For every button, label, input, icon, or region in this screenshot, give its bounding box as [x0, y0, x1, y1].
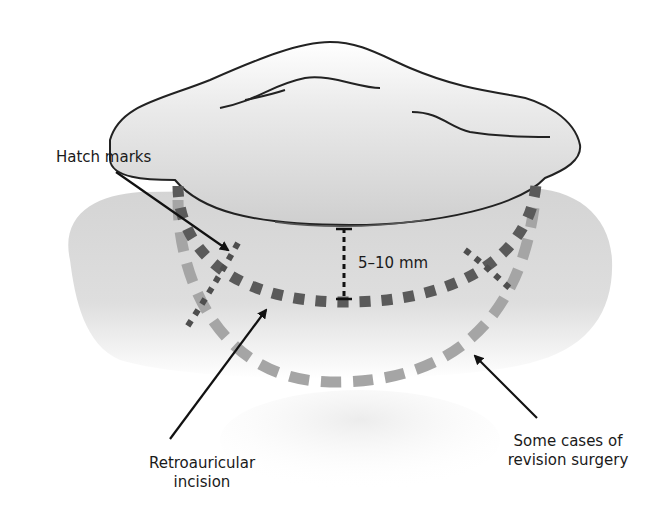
revision-label-line1: Some cases of: [488, 432, 648, 451]
hatch-marks-label: Hatch marks: [56, 148, 151, 167]
diagram-canvas: Hatch marks 5–10 mm Retroauricular incis…: [0, 0, 656, 515]
revision-label-line2: revision surgery: [488, 451, 648, 470]
distance-label: 5–10 mm: [358, 254, 428, 273]
retroauricular-label-line1: Retroauricular: [112, 454, 292, 473]
retroauricular-incision-label: Retroauricular incision: [112, 454, 292, 492]
retroauricular-label-line2: incision: [112, 473, 292, 492]
revision-surgery-label: Some cases of revision surgery: [488, 432, 648, 470]
